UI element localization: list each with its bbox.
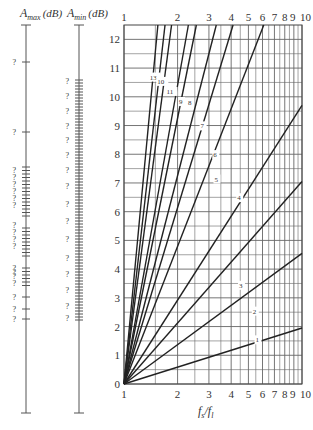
svg-text:?: ? — [12, 315, 16, 324]
svg-text:13: 13 — [150, 74, 158, 82]
svg-text:7: 7 — [201, 122, 205, 130]
svg-text:12: 12 — [109, 33, 120, 45]
line-7 — [124, 25, 216, 384]
svg-text:5: 5 — [214, 176, 218, 184]
svg-text:6: 6 — [260, 388, 266, 400]
svg-text:3: 3 — [206, 11, 212, 23]
svg-text:1: 1 — [115, 349, 121, 361]
svg-text:3: 3 — [206, 388, 212, 400]
svg-text:7: 7 — [272, 11, 278, 23]
svg-text:2: 2 — [115, 321, 121, 333]
svg-text:?: ? — [65, 92, 69, 101]
svg-text:?: ? — [65, 314, 69, 323]
svg-text:?: ? — [65, 182, 69, 191]
svg-text:11: 11 — [166, 88, 173, 96]
svg-text:?: ? — [65, 136, 69, 145]
svg-text:7: 7 — [272, 388, 278, 400]
svg-text:9: 9 — [115, 120, 121, 132]
nomograph-chart: Amax(dB) Amin(dB) ??????????????????? ??… — [0, 0, 313, 430]
svg-text:?: ? — [65, 122, 69, 131]
x-axis-top-labels: 12345678910 — [121, 11, 311, 23]
svg-text:4: 4 — [237, 194, 241, 202]
svg-text:?: ? — [65, 166, 69, 175]
svg-text:?: ? — [12, 279, 16, 288]
svg-text:9: 9 — [179, 98, 183, 106]
line-2 — [124, 253, 302, 384]
amin-title: Amin(dB) — [66, 6, 108, 22]
svg-text:7: 7 — [115, 177, 121, 189]
svg-text:6: 6 — [260, 11, 266, 23]
svg-text:3: 3 — [239, 282, 243, 290]
svg-text:?: ? — [65, 270, 69, 279]
svg-text:8: 8 — [115, 148, 121, 160]
svg-text:3: 3 — [115, 292, 121, 304]
svg-text:?: ? — [65, 151, 69, 160]
svg-text:1: 1 — [121, 388, 127, 400]
svg-text:?: ? — [65, 107, 69, 116]
svg-text:?: ? — [12, 305, 16, 314]
svg-text:10: 10 — [300, 11, 312, 23]
x-axis-label: fs/fl — [198, 404, 214, 420]
svg-text:?: ? — [12, 293, 16, 302]
svg-text:2: 2 — [253, 308, 257, 316]
svg-text:10: 10 — [157, 78, 165, 86]
curve-labels: 131011987654321 — [149, 73, 262, 345]
amax-title: Amax(dB) — [19, 6, 63, 22]
amin-scale — [74, 25, 84, 413]
svg-text:?: ? — [12, 242, 16, 251]
svg-text:1: 1 — [121, 11, 127, 23]
svg-text:10: 10 — [300, 388, 312, 400]
svg-text:1: 1 — [256, 336, 260, 344]
line-1 — [124, 328, 302, 384]
svg-text:?: ? — [12, 128, 16, 137]
svg-text:?: ? — [12, 201, 16, 210]
x-axis-bottom-labels: 12345678910 — [121, 388, 311, 400]
svg-text:2: 2 — [175, 11, 181, 23]
svg-text:?: ? — [65, 217, 69, 226]
amin-tick-labels: ???????????????? — [65, 77, 69, 323]
svg-text:?: ? — [65, 200, 69, 209]
svg-text:9: 9 — [290, 388, 296, 400]
svg-text:0: 0 — [115, 378, 121, 390]
svg-text:?: ? — [65, 254, 69, 263]
svg-text:9: 9 — [290, 11, 296, 23]
svg-text:4: 4 — [115, 263, 121, 275]
svg-text:?: ? — [12, 58, 16, 67]
svg-text:4: 4 — [228, 11, 234, 23]
svg-text:8: 8 — [282, 11, 288, 23]
svg-text:5: 5 — [246, 388, 252, 400]
amax-tick-labels: ??????????????????? — [12, 58, 16, 324]
svg-text:10: 10 — [109, 91, 121, 103]
amax-scale — [21, 25, 31, 413]
svg-text:2: 2 — [175, 388, 181, 400]
svg-text:8: 8 — [282, 388, 288, 400]
svg-text:6: 6 — [213, 151, 217, 159]
svg-text:?: ? — [65, 235, 69, 244]
svg-text:?: ? — [65, 302, 69, 311]
svg-text:11: 11 — [109, 62, 120, 74]
svg-text:5: 5 — [115, 234, 121, 246]
svg-text:6: 6 — [115, 206, 121, 218]
svg-text:?: ? — [65, 77, 69, 86]
y-axis-labels: 0123456789101112 — [109, 33, 121, 390]
svg-text:?: ? — [65, 286, 69, 295]
svg-text:5: 5 — [246, 11, 252, 23]
svg-text:4: 4 — [228, 388, 234, 400]
svg-text:8: 8 — [188, 99, 192, 107]
